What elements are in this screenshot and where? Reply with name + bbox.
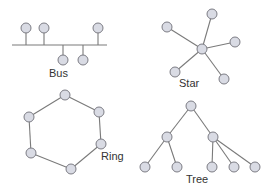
ring-node [96,139,106,149]
ring-node [66,164,76,174]
tree-node [162,132,172,142]
ring-node [26,148,36,158]
tree-topology [140,101,260,172]
ring-link [71,144,101,169]
bus-node [93,23,103,33]
bus-node [58,55,68,65]
ring-link [29,95,65,117]
tree-node [140,162,150,172]
tree-label: Tree [186,173,208,185]
star-link [202,49,224,79]
star-label: Star [179,77,200,89]
star-hub-node [197,44,207,54]
tree-link [167,106,191,137]
ring-node [60,90,70,100]
tree-node [250,162,260,172]
tree-node [208,132,218,142]
ring-node [94,107,104,117]
ring-topology [24,90,106,174]
ring-link [31,153,71,169]
star-node [162,22,172,32]
tree-link [191,106,213,137]
star-node [207,9,217,19]
star-node [230,37,240,47]
tree-link [145,137,167,167]
star-link [167,27,202,49]
star-node [170,67,180,77]
bus-node [21,23,31,33]
tree-node [172,162,182,172]
bus-topology [12,23,107,65]
ring-node [24,112,34,122]
bus-label: Bus [49,67,68,79]
star-node [219,74,229,84]
bus-node [78,55,88,65]
ring-label: Ring [101,150,124,162]
tree-node [207,162,217,172]
star-topology [162,9,240,84]
network-topology-diagram: Bus Star Ring Tree [0,0,272,194]
tree-root-node [186,101,196,111]
ring-link [65,95,99,112]
tree-node [229,162,239,172]
bus-node [39,23,49,33]
